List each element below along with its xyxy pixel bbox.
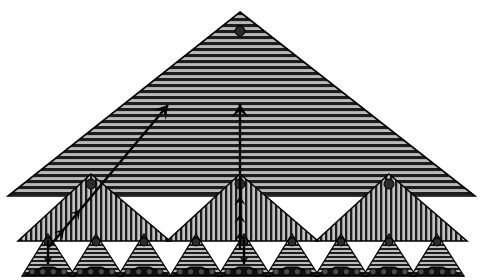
leaf-triangle-9-base-circle: [450, 269, 456, 275]
leaf-triangle-1-base-circle: [29, 269, 35, 275]
branch-triangle-1-node-dot: [86, 179, 96, 189]
leaf-triangle-8-base-circle: [402, 269, 408, 275]
leaf-triangle-9-base-circle: [439, 269, 445, 275]
leaf-triangle-3-base-circle: [125, 269, 131, 275]
leaf-triangle-1-base-circle: [40, 269, 46, 275]
leaf-triangle-6-node-dot: [288, 238, 296, 246]
leaf-triangle-3-base-circle: [146, 269, 152, 275]
leaf-triangle-4-base-circle: [188, 269, 194, 275]
root-triangle-node-dot: [235, 26, 245, 36]
leaf-triangle-7-base-circle: [333, 269, 339, 275]
level-2-branch-layer: [18, 174, 467, 241]
leaf-triangle-6-base-circle: [305, 269, 311, 275]
leaf-triangle-3-base-circle: [136, 269, 142, 275]
leaf-triangle-6-base-circle: [294, 269, 300, 275]
leaf-triangle-8-base-circle: [381, 269, 387, 275]
leaf-triangle-9-base-circle: [418, 269, 424, 275]
leaf-triangle-9-node-dot: [433, 238, 441, 246]
leaf-triangle-7-node-dot: [337, 238, 345, 246]
figure-canvas: [0, 0, 483, 280]
leaf-triangle-7-base-circle: [322, 269, 328, 275]
leaf-triangle-5-base-circle: [246, 269, 252, 275]
leaf-triangle-5-base-circle: [236, 269, 242, 275]
nested-triangle-diagram: [0, 0, 483, 280]
leaf-triangle-2-base-circle: [88, 269, 94, 275]
leaf-triangle-5-base-circle: [225, 269, 231, 275]
leaf-triangle-8-base-circle: [370, 269, 376, 275]
leaf-triangle-6-base-circle: [273, 269, 279, 275]
leaf-triangle-2-base-circle: [109, 269, 115, 275]
leaf-triangle-2-base-circle: [77, 269, 83, 275]
leaf-triangle-8-base-circle: [391, 269, 397, 275]
leaf-triangle-2-node-dot: [92, 238, 100, 246]
leaf-triangle-3-node-dot: [140, 238, 148, 246]
branch-triangle-3-node-dot: [384, 179, 394, 189]
leaf-triangle-4-node-dot: [192, 238, 200, 246]
leaf-triangle-5-base-circle: [257, 269, 263, 275]
leaf-triangle-1-base-circle: [50, 269, 56, 275]
leaf-triangle-7-base-circle: [354, 269, 360, 275]
leaf-triangle-1-base-circle: [61, 269, 67, 275]
leaf-triangle-8-node-dot: [385, 238, 393, 246]
leaf-triangle-6-base-circle: [284, 269, 290, 275]
leaf-triangle-4-base-circle: [177, 269, 183, 275]
leaf-triangle-4-base-circle: [198, 269, 204, 275]
leaf-triangle-2-base-circle: [98, 269, 104, 275]
leaf-triangle-9-base-circle: [429, 269, 435, 275]
leaf-triangle-3-base-circle: [157, 269, 163, 275]
leaf-triangle-7-base-circle: [343, 269, 349, 275]
leaf-triangle-4-base-circle: [209, 269, 215, 275]
